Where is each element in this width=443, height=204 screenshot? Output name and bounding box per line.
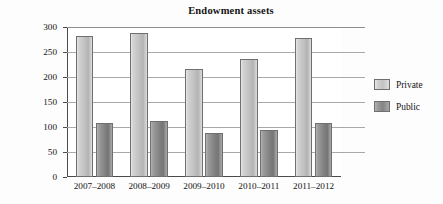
x-axis-tick-label: 2008–2009 — [129, 181, 170, 191]
x-axis-tick-label: 2010–2011 — [238, 181, 279, 191]
y-axis-tick-label: 100 — [43, 122, 57, 132]
bar-private-2011–2012 — [295, 38, 313, 177]
bar-public-2008–2009 — [150, 121, 168, 177]
y-axis-tick: 250 — [63, 52, 67, 53]
x-axis-tick-label: 2009–2010 — [183, 181, 224, 191]
legend-item-public: Public — [374, 101, 423, 112]
bar-private-2009–2010 — [185, 69, 203, 178]
y-axis-tick: 300 — [63, 27, 67, 28]
legend: PrivatePublic — [374, 79, 423, 112]
y-axis-tick: 100 — [63, 127, 67, 128]
bar-public-2011–2012 — [315, 123, 333, 177]
y-axis-tick: 50 — [63, 152, 67, 153]
y-axis-tick-label: 150 — [43, 97, 57, 107]
legend-swatch-public — [374, 101, 390, 112]
y-axis-tick-label: 50 — [48, 147, 57, 157]
gridline — [67, 27, 365, 28]
y-axis-tick: 150 — [63, 102, 67, 103]
y-axis-tick-label: 250 — [43, 47, 57, 57]
gridline — [67, 102, 365, 103]
endowment-assets-bar-chart: Endowment assets Average by school type … — [0, 0, 443, 204]
y-axis-tick: 200 — [63, 77, 67, 78]
bar-private-2010–2011 — [240, 59, 258, 177]
x-axis-tick-label: 2007–2008 — [74, 181, 115, 191]
y-axis-tick-label: 200 — [43, 72, 57, 82]
y-axis-tick: 0 — [63, 177, 67, 178]
x-axis-tick-label: 2011–2012 — [293, 181, 334, 191]
bar-private-2007–2008 — [76, 36, 94, 178]
y-axis-tick-label: 0 — [52, 172, 57, 182]
legend-item-private: Private — [374, 79, 423, 90]
legend-label: Public — [396, 102, 420, 112]
bar-public-2009–2010 — [205, 133, 223, 177]
bar-public-2007–2008 — [96, 123, 114, 178]
y-axis-tick-label: 300 — [43, 22, 57, 32]
gridline — [67, 52, 365, 53]
legend-label: Private — [396, 80, 423, 90]
plot-area: 050100150200250300 2007–20082008–2009200… — [67, 27, 341, 177]
bar-private-2008–2009 — [130, 33, 148, 177]
chart-title: Endowment assets — [96, 5, 366, 16]
legend-swatch-private — [374, 79, 390, 90]
gridline — [67, 77, 365, 78]
bar-public-2010–2011 — [260, 130, 278, 178]
